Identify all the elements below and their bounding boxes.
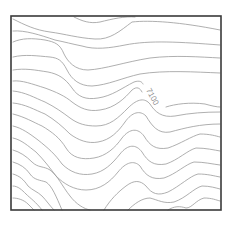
elevation-label: 7100 [144, 87, 161, 107]
contour-labels: 7100 [144, 87, 161, 107]
contour-line [13, 81, 142, 111]
contour-line [13, 114, 220, 159]
contour-line [74, 17, 135, 23]
contour-line [104, 174, 220, 210]
contour-lines [13, 17, 220, 210]
contour-map: 7100 [0, 0, 233, 226]
contour-line [13, 138, 220, 190]
contour-line [13, 174, 54, 210]
contour-line [13, 91, 220, 126]
contour-line [13, 162, 62, 210]
contour-line [13, 55, 220, 86]
contour-line [168, 198, 220, 210]
contour-line [13, 39, 220, 70]
contour-line [166, 103, 220, 107]
contour-line [13, 103, 220, 143]
contour-line [13, 198, 34, 210]
